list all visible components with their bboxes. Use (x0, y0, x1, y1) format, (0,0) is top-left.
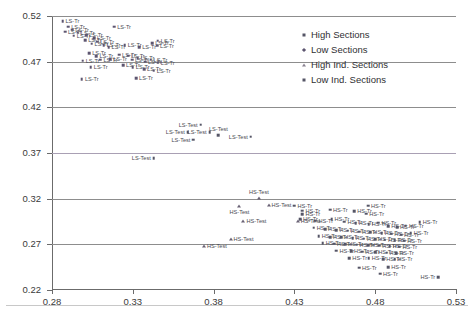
square-marker-icon (374, 238, 377, 241)
square-marker-icon (418, 221, 421, 224)
square-marker-icon (192, 138, 195, 141)
data-point-label: HS-Tr (423, 219, 438, 225)
diamond-marker-icon (109, 58, 112, 61)
square-marker-icon (344, 243, 347, 246)
diamond-marker-icon (157, 39, 160, 42)
square-marker-icon (333, 243, 336, 246)
x-tick (294, 289, 295, 294)
diamond-marker-icon (85, 34, 88, 37)
legend-label: Low Ind. Sections (311, 74, 386, 86)
square-marker-icon (355, 243, 358, 246)
data-point-label: LS-Test (229, 134, 248, 140)
diamond-marker-icon (144, 60, 147, 63)
square-marker-icon (299, 30, 308, 39)
data-point-label: HS-Tr (371, 203, 386, 209)
diamond-marker-icon (64, 30, 67, 33)
data-point-label: HS-Tr (398, 256, 413, 262)
data-point-label: LS-Test (188, 129, 207, 135)
legend-item[interactable]: Low Ind. Sections (299, 72, 388, 87)
diamond-marker-icon (299, 45, 308, 54)
square-marker-icon (377, 222, 380, 225)
square-marker-icon (358, 230, 361, 233)
square-marker-icon (409, 232, 412, 235)
data-point-label: HS-Tr (362, 265, 377, 271)
square-marker-icon (346, 229, 349, 232)
square-marker-icon (398, 245, 401, 248)
y-tick-label: 0.32 (23, 193, 42, 204)
gridline (52, 153, 456, 154)
square-marker-icon (403, 239, 406, 242)
plot-area: 0.520.470.420.370.320.270.22 0.280.330.3… (52, 16, 456, 290)
legend-label: Low Sections (311, 44, 368, 56)
diamond-marker-icon (99, 59, 102, 62)
square-marker-icon (405, 224, 408, 227)
data-point-label: HS-Tr (421, 274, 436, 280)
diamond-marker-icon (113, 25, 116, 28)
diamond-marker-icon (136, 57, 139, 60)
square-marker-icon (396, 226, 399, 229)
diamond-marker-icon (67, 25, 70, 28)
square-marker-icon (353, 210, 356, 213)
legend-item[interactable]: High Sections (299, 27, 388, 42)
triangle-marker-icon (267, 203, 271, 206)
y-tick: 0.32 (47, 199, 52, 200)
square-marker-icon (293, 204, 296, 207)
data-point-label: HS-Tr (369, 211, 384, 217)
square-marker-icon (340, 236, 343, 239)
diamond-marker-icon (123, 44, 126, 47)
y-tick: 0.52 (47, 16, 52, 17)
diamond-marker-icon (102, 44, 105, 47)
data-point-label: LS-Tr (85, 76, 99, 82)
diamond-marker-icon (138, 46, 141, 49)
data-point-label: HS-Test (246, 218, 266, 224)
diamond-marker-icon (89, 66, 92, 69)
triangle-marker-icon (202, 245, 206, 248)
x-tick (52, 289, 53, 294)
square-marker-icon (385, 251, 388, 254)
square-marker-icon (217, 134, 220, 137)
diamond-marker-icon (81, 78, 84, 81)
square-marker-icon (321, 242, 324, 245)
y-tick: 0.47 (47, 62, 52, 63)
diamond-marker-icon (143, 68, 146, 71)
square-marker-icon (367, 257, 370, 260)
diamond-marker-icon (122, 64, 125, 67)
gridline (52, 107, 456, 108)
square-marker-icon (355, 222, 358, 225)
data-point-label: HS-Tr (399, 250, 414, 256)
square-marker-icon (329, 208, 332, 211)
data-point-label: HS-Test (230, 209, 250, 215)
square-marker-icon (301, 213, 304, 216)
square-marker-icon (317, 235, 320, 238)
legend-item[interactable]: High Ind. Sections (299, 57, 388, 72)
bottom-divider (6, 305, 468, 306)
data-point-label: HS-Test (249, 189, 269, 195)
y-tick-label: 0.27 (23, 238, 42, 249)
square-marker-icon (387, 225, 390, 228)
diamond-marker-icon (81, 59, 84, 62)
data-point-label: HS-Tr (352, 255, 367, 261)
diamond-marker-icon (84, 39, 87, 42)
triangle-marker-icon (241, 220, 245, 223)
square-marker-icon (384, 238, 387, 241)
y-tick: 0.42 (47, 107, 52, 108)
y-tick: 0.27 (47, 244, 52, 245)
square-marker-icon (367, 244, 370, 247)
square-marker-icon (329, 236, 332, 239)
y-tick-label: 0.52 (23, 10, 42, 21)
triangle-marker-icon (257, 196, 261, 199)
data-point-label: HS-Tr (297, 203, 312, 209)
square-marker-icon (350, 250, 353, 253)
data-point-label: HS-Test (234, 236, 254, 242)
diamond-marker-icon (73, 34, 76, 37)
data-point-label: LS-Tr (139, 75, 153, 81)
square-marker-icon (369, 231, 372, 234)
diamond-marker-icon (131, 59, 134, 62)
data-point-label: LS-Test (179, 122, 198, 128)
legend-label: High Sections (311, 29, 370, 41)
square-marker-icon (330, 218, 333, 221)
square-marker-icon (199, 123, 202, 126)
diamond-marker-icon (153, 70, 156, 73)
square-marker-icon (343, 220, 346, 223)
legend-item[interactable]: Low Sections (299, 42, 388, 57)
